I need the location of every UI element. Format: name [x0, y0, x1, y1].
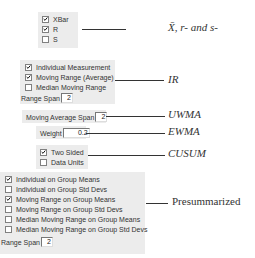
ir-range-span-row: Range Span 2: [21, 93, 73, 103]
moving-range-on-group-means-label: Moving Range on Group Means: [16, 196, 115, 203]
median-moving-range-row[interactable]: Median Moving Range: [25, 82, 106, 92]
two-sided-checkbox[interactable]: [40, 149, 47, 156]
median-moving-range-on-group-std-devs-label: Median Moving Range on Group Std Devs: [16, 226, 148, 233]
xbar-checkbox[interactable]: [42, 16, 49, 23]
individual-measurement-row[interactable]: Individual Measurement: [25, 62, 110, 72]
xbar-checkbox-row[interactable]: XBar: [42, 14, 69, 24]
ir-leader-line: [115, 80, 164, 81]
presummarized-annotation: Presummarized: [172, 195, 240, 207]
two-sided-row[interactable]: Two Sided: [40, 147, 84, 157]
checkmark-icon: [43, 26, 48, 32]
data-units-checkbox[interactable]: [40, 159, 47, 166]
individual-on-group-means-label: Individual on Group Means: [16, 176, 100, 183]
median-moving-range-on-group-means-checkbox[interactable]: [5, 216, 12, 223]
data-units-row[interactable]: Data Units: [40, 157, 84, 167]
individual-on-group-means-row[interactable]: Individual on Group Means: [5, 174, 100, 184]
uwma-row: Moving Average Span 2: [26, 112, 107, 122]
checkmark-icon: [6, 176, 11, 182]
moving-range-average-checkbox[interactable]: [25, 74, 32, 81]
ewma-annotation: EWMA: [168, 125, 200, 137]
s-checkbox-row[interactable]: S: [42, 34, 58, 44]
two-sided-label: Two Sided: [51, 149, 84, 156]
checkmark-icon: [26, 64, 31, 70]
presummarized-leader-line: [146, 203, 168, 204]
ir-range-span-input[interactable]: 2: [61, 93, 73, 103]
median-moving-range-label: Median Moving Range: [36, 84, 106, 91]
r-checkbox-row[interactable]: R: [42, 24, 58, 34]
moving-range-on-group-std-devs-checkbox[interactable]: [5, 206, 12, 213]
data-units-label: Data Units: [51, 159, 84, 166]
ewma-row: Weight 0.2: [40, 128, 90, 138]
ewma-leader-line: [86, 133, 165, 134]
median-moving-range-on-group-means-label: Median Moving Range on Group Means: [16, 216, 140, 223]
s-label: S: [53, 36, 58, 43]
presummarized-range-span-row: Range Span 2: [1, 237, 53, 247]
moving-range-on-group-means-row[interactable]: Moving Range on Group Means: [5, 194, 115, 204]
moving-range-on-group-means-checkbox[interactable]: [5, 196, 12, 203]
moving-range-average-row[interactable]: Moving Range (Average): [25, 72, 114, 82]
weight-label: Weight: [40, 130, 62, 137]
r-label: R: [53, 26, 58, 33]
moving-range-on-group-std-devs-row[interactable]: Moving Range on Group Std Devs: [5, 204, 123, 214]
moving-average-span-input[interactable]: 2: [95, 112, 107, 122]
s-checkbox[interactable]: [42, 36, 49, 43]
checkmark-icon: [43, 16, 48, 22]
checkmark-icon: [6, 196, 11, 202]
uwma-annotation: UWMA: [168, 108, 201, 120]
moving-range-on-group-std-devs-label: Moving Range on Group Std Devs: [16, 206, 123, 213]
individual-measurement-label: Individual Measurement: [36, 64, 110, 71]
individual-measurement-checkbox[interactable]: [25, 64, 32, 71]
individual-on-group-std-devs-label: Individual on Group Std Devs: [16, 186, 107, 193]
checkmark-icon: [26, 74, 31, 80]
moving-average-span-label: Moving Average Span: [26, 114, 94, 121]
presummarized-range-span-label: Range Span: [1, 239, 40, 246]
ir-range-span-label: Range Span: [21, 95, 60, 102]
moving-range-average-label: Moving Range (Average): [36, 74, 114, 81]
ir-annotation: IR: [168, 73, 178, 85]
individual-on-group-std-devs-row[interactable]: Individual on Group Std Devs: [5, 184, 107, 194]
cusum-annotation: CUSUM: [168, 147, 206, 159]
checkmark-icon: [41, 149, 46, 155]
individual-on-group-std-devs-checkbox[interactable]: [5, 186, 12, 193]
xbar-r-s-annotation: X̄, r- and s-: [168, 21, 218, 33]
cusum-leader-line: [88, 155, 165, 156]
r-checkbox[interactable]: [42, 26, 49, 33]
median-moving-range-on-group-means-row[interactable]: Median Moving Range on Group Means: [5, 214, 140, 224]
xbar-label: XBar: [53, 16, 69, 23]
individual-on-group-means-checkbox[interactable]: [5, 176, 12, 183]
xbar-leader-line: [82, 29, 126, 30]
presummarized-range-span-input[interactable]: 2: [41, 237, 53, 247]
uwma-leader-line: [106, 116, 165, 117]
median-moving-range-on-group-std-devs-checkbox[interactable]: [5, 226, 12, 233]
median-moving-range-checkbox[interactable]: [25, 84, 32, 91]
median-moving-range-on-group-std-devs-row[interactable]: Median Moving Range on Group Std Devs: [5, 224, 148, 234]
